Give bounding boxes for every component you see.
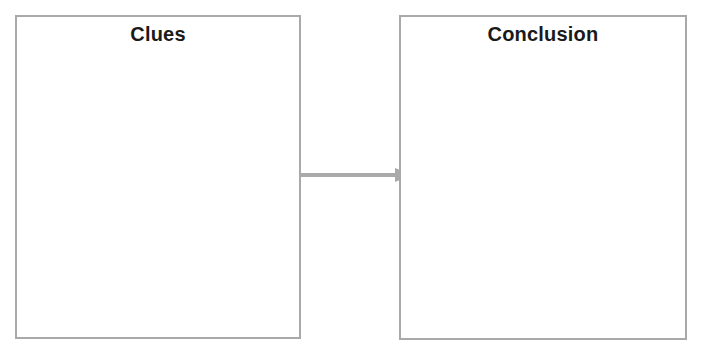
clues-title: Clues	[17, 23, 299, 46]
arrow-icon	[300, 166, 415, 184]
conclusion-title: Conclusion	[401, 23, 685, 46]
conclusion-box: Conclusion	[399, 15, 687, 340]
clues-box: Clues	[15, 15, 301, 339]
